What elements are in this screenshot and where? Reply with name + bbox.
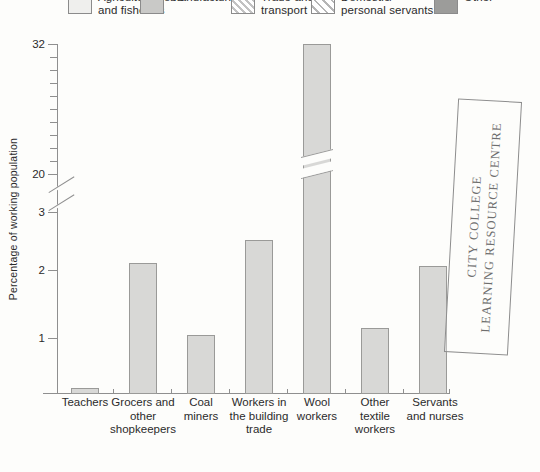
bar-grocers[interactable] (129, 263, 157, 394)
y-tick-minor-4 (50, 96, 57, 97)
y-tick-minor-9 (50, 161, 57, 162)
legend-swatch-domestic-icon (311, 0, 335, 14)
x-tick-4 (287, 389, 288, 394)
x-tick-7 (449, 389, 450, 394)
legend-item-trade: Trade and transport (231, 0, 314, 17)
bar-servants-nurses[interactable] (419, 266, 447, 394)
x-tick-1 (113, 389, 114, 394)
y-tick-minor-1 (50, 57, 57, 58)
bar-building-trade[interactable] (245, 240, 273, 394)
bar-teachers[interactable] (71, 388, 99, 394)
y-tick-2 (48, 270, 57, 271)
bar-wool-workers[interactable] (303, 44, 331, 394)
x-tick-6 (403, 389, 404, 394)
y-tick-1 (48, 338, 57, 339)
y-axis-title: Percentage of working population (7, 138, 19, 300)
x-tick-2 (171, 389, 172, 394)
legend-label-other: Other (464, 0, 493, 4)
y-tick-32 (48, 44, 57, 45)
legend-item-domestic: Domestic/ personal servants (311, 0, 433, 17)
bar-break-line-lower (301, 170, 333, 179)
y-tick-minor-2 (50, 70, 57, 71)
y-tick-label-20: 20 (32, 168, 45, 180)
x-label-servants-nurses: Servants and nurses (397, 396, 473, 423)
y-axis-break-lower-icon (48, 194, 75, 212)
legend-item-other: Other (434, 0, 493, 14)
legend-item-manufacturing: Manufacturing (140, 0, 244, 14)
y-tick-minor-6 (50, 122, 57, 123)
bar-coal-miners[interactable] (187, 335, 215, 394)
plot-area: Percentage of working population 32 20 3… (57, 44, 449, 394)
bar-chart: Agriculture, food and fisheries Manufact… (0, 0, 540, 472)
x-tick-5 (345, 389, 346, 394)
legend-swatch-agriculture-icon (68, 0, 92, 14)
y-tick-label-3: 3 (39, 206, 45, 218)
legend-swatch-other-icon (434, 0, 458, 14)
y-tick-label-2: 2 (39, 264, 45, 276)
y-axis-break-upper-icon (48, 176, 75, 194)
legend-label-trade: Trade and transport (261, 0, 314, 17)
bar-other-textile[interactable] (361, 328, 389, 394)
y-tick-minor-3 (50, 83, 57, 84)
y-tick-minor-5 (50, 109, 57, 110)
y-tick-label-1: 1 (39, 332, 45, 344)
library-stamp: CITY COLLEGE LEARNING RESOURCE CENTRE (444, 98, 522, 355)
legend-swatch-trade-icon (231, 0, 255, 14)
y-tick-minor-8 (50, 148, 57, 149)
y-tick-3 (48, 212, 57, 213)
bar-break-line-upper (301, 149, 333, 158)
x-tick-3 (229, 389, 230, 394)
y-tick-minor-7 (50, 135, 57, 136)
legend-label-domestic: Domestic/ personal servants (341, 0, 433, 17)
y-axis-line (57, 44, 58, 394)
y-tick-label-32: 32 (32, 38, 45, 50)
chart-legend: Agriculture, food and fisheries Manufact… (0, 0, 540, 24)
x-tick-0 (57, 389, 58, 394)
y-tick-20 (48, 174, 57, 175)
legend-swatch-manufacturing-icon (140, 0, 164, 14)
x-label-wool-workers: Wool workers (285, 396, 349, 423)
